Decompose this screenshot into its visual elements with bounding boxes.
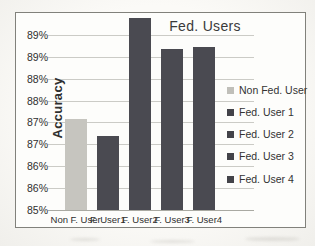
legend-item: Fed. User 2 bbox=[227, 129, 294, 140]
y-tick-label: 89% bbox=[18, 30, 48, 41]
bar-f-user4 bbox=[193, 47, 215, 210]
chart-frame: Fed. Users 89%89%88%88%87%87%86%86%85% A… bbox=[15, 12, 306, 228]
y-axis-title: Accuracy bbox=[50, 78, 65, 139]
chart-title: Fed. Users bbox=[169, 19, 240, 33]
legend-label: Non Fed. User bbox=[239, 85, 307, 96]
legend-label: Fed. User 4 bbox=[239, 174, 294, 185]
photo-of-chart: Fed. Users 89%89%88%88%87%87%86%86%85% A… bbox=[0, 0, 315, 246]
legend-item: Non Fed. User bbox=[227, 85, 307, 96]
y-tick-label: 85% bbox=[18, 205, 48, 216]
bar-f-user2 bbox=[129, 18, 151, 210]
x-category-label: F. User1 bbox=[90, 214, 125, 225]
x-axis-line bbox=[48, 210, 254, 211]
legend-item: Fed. User 3 bbox=[227, 151, 294, 162]
legend-label: Fed. User 2 bbox=[239, 129, 294, 140]
bar-f-user3 bbox=[161, 49, 183, 210]
gridline bbox=[48, 79, 254, 80]
gridline bbox=[48, 57, 254, 58]
photo-artifact bbox=[245, 237, 300, 241]
legend-swatch-icon bbox=[227, 176, 234, 183]
bar-non-f-user bbox=[65, 119, 87, 210]
legend-label: Fed. User 3 bbox=[239, 151, 294, 162]
gridline bbox=[48, 101, 254, 102]
legend-item: Fed. User 4 bbox=[227, 174, 294, 185]
y-tick-label: 86% bbox=[18, 161, 48, 172]
x-category-label: F. User3 bbox=[155, 214, 190, 225]
photo-artifact bbox=[150, 240, 195, 243]
x-category-label: F. User2 bbox=[122, 214, 157, 225]
legend-swatch-icon bbox=[227, 87, 234, 94]
y-tick-label: 88% bbox=[18, 74, 48, 85]
legend-swatch-icon bbox=[227, 109, 234, 116]
gridline bbox=[48, 35, 254, 36]
y-tick-label: 87% bbox=[18, 117, 48, 128]
legend-swatch-icon bbox=[227, 153, 234, 160]
legend-swatch-icon bbox=[227, 131, 234, 138]
legend-item: Fed. User 1 bbox=[227, 107, 294, 118]
x-category-label: F. User4 bbox=[187, 214, 222, 225]
y-tick-label: 87% bbox=[18, 139, 48, 150]
legend-label: Fed. User 1 bbox=[239, 107, 294, 118]
y-tick-label: 89% bbox=[18, 52, 48, 63]
photo-artifact bbox=[70, 238, 100, 241]
y-tick-label: 86% bbox=[18, 183, 48, 194]
y-tick-label: 88% bbox=[18, 96, 48, 107]
bar-f-user1 bbox=[97, 136, 119, 210]
